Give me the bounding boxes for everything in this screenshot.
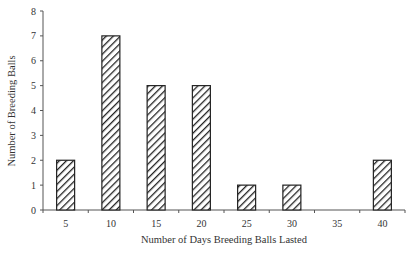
x-tick-label: 25 xyxy=(242,218,252,229)
bar xyxy=(238,185,256,210)
y-axis: 012345678 xyxy=(31,6,43,216)
bars xyxy=(57,36,392,210)
x-axis: 510152025303540 xyxy=(43,210,405,229)
y-tick-label: 3 xyxy=(31,130,36,141)
y-tick-label: 6 xyxy=(31,55,36,66)
x-tick-label: 35 xyxy=(332,218,342,229)
y-tick-label: 4 xyxy=(31,105,36,116)
x-tick-label: 20 xyxy=(196,218,206,229)
bar xyxy=(192,86,210,210)
bar xyxy=(373,160,391,210)
x-tick-label: 5 xyxy=(63,218,68,229)
x-axis-title: Number of Days Breeding Balls Lasted xyxy=(141,234,308,245)
bar xyxy=(102,36,120,210)
bar-chart: 012345678 510152025303540 Number of Bree… xyxy=(0,0,413,256)
y-tick-label: 2 xyxy=(31,155,36,166)
y-tick-label: 0 xyxy=(31,205,36,216)
y-axis-title: Number of Breeding Balls xyxy=(6,55,17,166)
x-tick-label: 10 xyxy=(106,218,116,229)
y-tick-label: 8 xyxy=(31,6,36,17)
y-tick-label: 1 xyxy=(31,180,36,191)
y-tick-label: 5 xyxy=(31,80,36,91)
x-tick-label: 30 xyxy=(287,218,297,229)
bar xyxy=(57,160,75,210)
x-tick-label: 40 xyxy=(377,218,387,229)
bar xyxy=(283,185,301,210)
x-tick-label: 15 xyxy=(151,218,161,229)
bar xyxy=(147,86,165,210)
y-tick-label: 7 xyxy=(31,30,36,41)
